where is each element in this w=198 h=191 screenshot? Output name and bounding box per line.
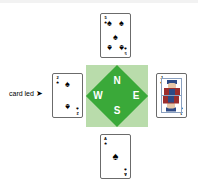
compass-label-west: W xyxy=(90,91,106,101)
spade-icon: ♠ xyxy=(111,33,120,42)
spade-icon: ♠ xyxy=(110,151,121,162)
court-figure-top-half xyxy=(162,79,181,96)
compass-label-north: N xyxy=(86,76,148,86)
court-collar-shape xyxy=(169,96,175,103)
card-east-court-figure xyxy=(161,78,182,113)
card-north[interactable]: 5 ♠ 5 ♠ ♠ ♠ ♠ ♠ ♠ xyxy=(100,13,131,58)
card-led-text: card led xyxy=(9,90,34,97)
arrow-right-icon: ➤ xyxy=(36,90,43,98)
card-led-annotation: card led➤ xyxy=(9,89,43,98)
spade-icon: ♠ xyxy=(105,43,114,52)
card-south[interactable]: A ♠ A ♠ ♠ xyxy=(100,134,131,179)
compass-label-east: E xyxy=(128,91,144,101)
spade-icon: ♠ xyxy=(63,80,72,89)
card-south-pips: ♠ xyxy=(105,139,126,174)
spade-icon: ♠ xyxy=(117,19,126,28)
card-west[interactable]: 2 ♠ 2 ♠ ♠ ♠ xyxy=(52,73,83,118)
card-east[interactable]: J ♠ J ♠ xyxy=(156,73,187,118)
card-west-pips: ♠ ♠ xyxy=(57,78,78,113)
court-divider-line xyxy=(162,95,181,96)
card-north-pips: ♠ ♠ ♠ ♠ ♠ xyxy=(105,18,126,53)
spade-icon: ♠ xyxy=(63,102,72,111)
spade-icon: ♠ xyxy=(105,19,114,28)
compass-rose: N W E S xyxy=(86,65,148,127)
court-figure-bottom-half xyxy=(162,96,181,113)
card-trick-diagram: N W E S 5 ♠ 5 ♠ ♠ ♠ ♠ ♠ ♠ 2 ♠ 2 ♠ xyxy=(0,0,198,191)
spade-icon: ♠ xyxy=(117,43,126,52)
top-edge-strip xyxy=(0,0,198,3)
compass-label-south: S xyxy=(86,106,148,116)
